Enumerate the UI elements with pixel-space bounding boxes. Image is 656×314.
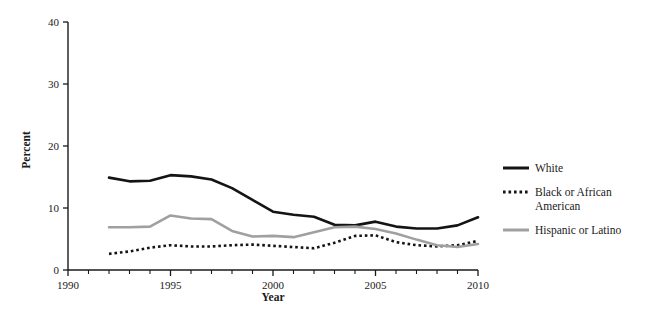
x-tick-label: 2005	[365, 279, 388, 291]
series-line	[109, 175, 478, 228]
legend-label-continued: American	[535, 200, 581, 212]
chart-series-group	[109, 175, 478, 254]
x-tick-label: 1995	[160, 279, 183, 291]
chart-figure: 010203040 19901995200020052010 Percent Y…	[0, 0, 656, 314]
x-tick-label: 2010	[467, 279, 490, 291]
chart-legend: WhiteBlack or AfricanAmericanHispanic or…	[503, 162, 621, 237]
y-tick-label: 20	[48, 140, 60, 152]
y-tick-label: 30	[48, 78, 60, 90]
x-tick-label: 2000	[262, 279, 285, 291]
x-axis-tick-labels: 19901995200020052010	[57, 279, 490, 291]
legend-label: Hispanic or Latino	[535, 224, 621, 237]
x-tick-label: 1990	[57, 279, 80, 291]
y-tick-label: 40	[48, 16, 60, 28]
line-chart: 010203040 19901995200020052010 Percent Y…	[0, 0, 656, 314]
y-axis-title: Percent	[20, 131, 32, 169]
series-line	[109, 215, 478, 247]
y-tick-label: 0	[54, 264, 60, 276]
y-axis-ticks	[63, 22, 68, 270]
legend-label: White	[535, 162, 563, 174]
chart-axes	[68, 22, 478, 270]
y-axis-tick-labels: 010203040	[48, 16, 60, 276]
y-tick-label: 10	[48, 202, 60, 214]
x-axis-title: Year	[262, 291, 285, 303]
legend-label: Black or African	[535, 186, 612, 198]
